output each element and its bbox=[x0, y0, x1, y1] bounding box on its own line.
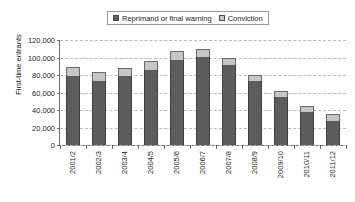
bar-segment-reprimand[interactable] bbox=[326, 121, 340, 146]
bar-stack[interactable] bbox=[222, 58, 236, 146]
bar-segment-reprimand[interactable] bbox=[248, 81, 262, 145]
bar-segment-reprimand[interactable] bbox=[170, 60, 184, 145]
y-tick-label: 80,000 bbox=[32, 71, 55, 80]
x-tick-label: 2010/11 bbox=[302, 151, 311, 178]
bar-series-group bbox=[60, 40, 346, 145]
y-axis-title: First-time entrants bbox=[14, 10, 23, 120]
bar-slot bbox=[320, 40, 346, 145]
bar-slot bbox=[216, 40, 242, 145]
x-label-slot: 2011/12 bbox=[319, 151, 345, 199]
bar-segment-conviction[interactable] bbox=[196, 49, 210, 57]
bar-segment-reprimand[interactable] bbox=[118, 76, 132, 145]
bar-chart: Reprimand or final warning Conviction Fi… bbox=[0, 0, 355, 202]
bar-segment-reprimand[interactable] bbox=[66, 76, 80, 145]
legend-item-conviction: Conviction bbox=[219, 14, 263, 23]
bar-segment-reprimand[interactable] bbox=[300, 112, 314, 145]
bar-segment-conviction[interactable] bbox=[118, 68, 132, 76]
legend-swatch-icon-conviction bbox=[219, 15, 225, 21]
bar-segment-reprimand[interactable] bbox=[274, 97, 288, 145]
legend-label-conviction: Conviction bbox=[228, 14, 263, 23]
x-label-slot: 2003/4 bbox=[111, 151, 137, 199]
bar-slot bbox=[190, 40, 216, 145]
bar-stack[interactable] bbox=[170, 51, 184, 145]
x-tick-label: 2002/3 bbox=[94, 151, 103, 174]
bar-segment-conviction[interactable] bbox=[144, 61, 158, 70]
x-tick-mark bbox=[112, 145, 113, 149]
bar-slot bbox=[112, 40, 138, 145]
plot-area: 120,000100,00080,00060,00040,00020,0000 bbox=[59, 40, 346, 146]
bar-stack[interactable] bbox=[66, 67, 80, 145]
legend-item-reprimand: Reprimand or final warning bbox=[113, 14, 212, 23]
bar-slot bbox=[138, 40, 164, 145]
x-label-slot: 2004/5 bbox=[137, 151, 163, 199]
x-label-slot: 2010/11 bbox=[293, 151, 319, 199]
y-tick-label: 100,000 bbox=[28, 53, 55, 62]
x-tick-label: 2005/6 bbox=[172, 151, 181, 174]
x-tick-mark bbox=[346, 145, 347, 149]
x-tick-label: 2006/7 bbox=[198, 151, 207, 174]
x-label-slot: 2006/7 bbox=[189, 151, 215, 199]
x-tick-label: 2011/12 bbox=[328, 151, 337, 178]
bar-segment-conviction[interactable] bbox=[92, 72, 106, 81]
x-tick-label: 2009/10 bbox=[276, 151, 285, 178]
bar-stack[interactable] bbox=[248, 75, 262, 145]
bar-slot bbox=[294, 40, 320, 145]
x-label-slot: 2008/9 bbox=[241, 151, 267, 199]
x-tick-label: 2008/9 bbox=[250, 151, 259, 174]
bar-segment-conviction[interactable] bbox=[66, 67, 80, 76]
bar-segment-reprimand[interactable] bbox=[92, 81, 106, 145]
bar-stack[interactable] bbox=[118, 68, 132, 145]
bar-segment-reprimand[interactable] bbox=[222, 65, 236, 145]
bar-stack[interactable] bbox=[144, 61, 158, 145]
bar-segment-reprimand[interactable] bbox=[144, 70, 158, 145]
legend-swatch-icon-reprimand bbox=[113, 15, 119, 21]
x-tick-mark bbox=[216, 145, 217, 149]
x-tick-mark bbox=[294, 145, 295, 149]
bar-stack[interactable] bbox=[92, 72, 106, 145]
x-tick-mark bbox=[320, 145, 321, 149]
x-label-slot: 2005/6 bbox=[163, 151, 189, 199]
bar-slot bbox=[86, 40, 112, 145]
chart-legend: Reprimand or final warning Conviction bbox=[107, 11, 269, 25]
bar-slot bbox=[60, 40, 86, 145]
y-tick-label: 20,000 bbox=[32, 123, 55, 132]
gridline bbox=[60, 145, 346, 146]
bar-segment-reprimand[interactable] bbox=[196, 57, 210, 145]
bar-stack[interactable] bbox=[274, 91, 288, 145]
x-tick-mark bbox=[60, 145, 61, 149]
x-tick-mark bbox=[138, 145, 139, 149]
x-tick-mark bbox=[268, 145, 269, 149]
bar-slot bbox=[164, 40, 190, 145]
bar-slot bbox=[268, 40, 294, 145]
x-label-slot: 2002/3 bbox=[85, 151, 111, 199]
y-tick-label: 60,000 bbox=[32, 88, 55, 97]
y-tick-label: 0 bbox=[51, 141, 55, 150]
bar-slot bbox=[242, 40, 268, 145]
x-label-slot: 2007/8 bbox=[215, 151, 241, 199]
bar-stack[interactable] bbox=[196, 49, 210, 145]
x-axis-labels: 2001/22002/32003/42004/52005/62006/72007… bbox=[59, 151, 345, 199]
x-tick-mark bbox=[190, 145, 191, 149]
legend-label-reprimand: Reprimand or final warning bbox=[122, 14, 212, 23]
bar-stack[interactable] bbox=[300, 106, 314, 145]
x-tick-mark bbox=[242, 145, 243, 149]
x-label-slot: 2001/2 bbox=[59, 151, 85, 199]
x-tick-mark bbox=[86, 145, 87, 149]
y-tick-label: 40,000 bbox=[32, 106, 55, 115]
x-tick-label: 2003/4 bbox=[120, 151, 129, 174]
x-label-slot: 2009/10 bbox=[267, 151, 293, 199]
x-tick-mark bbox=[164, 145, 165, 149]
bar-segment-conviction[interactable] bbox=[222, 58, 236, 66]
bar-stack[interactable] bbox=[326, 114, 340, 146]
x-tick-label: 2004/5 bbox=[146, 151, 155, 174]
bar-segment-conviction[interactable] bbox=[170, 51, 184, 60]
y-tick-label: 120,000 bbox=[28, 36, 55, 45]
x-tick-label: 2007/8 bbox=[224, 151, 233, 174]
bar-segment-conviction[interactable] bbox=[326, 114, 340, 121]
x-tick-label: 2001/2 bbox=[68, 151, 77, 174]
